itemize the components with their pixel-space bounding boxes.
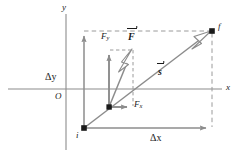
force-vector-symbol: F: [128, 31, 135, 42]
delta-x-label: Δx: [150, 133, 161, 143]
force-y-component-subscript: y: [107, 34, 110, 41]
vector-diagram-figure: x y O i f Δy Δx Fy Fx F s: [0, 0, 239, 156]
x-axis-label: x: [226, 83, 230, 92]
initial-point-marker: [81, 125, 87, 131]
axis-lines: [8, 14, 222, 150]
y-axis-label: y: [62, 3, 66, 12]
origin-label: O: [55, 92, 62, 101]
force-vector-label: F: [128, 32, 135, 42]
initial-point-label: i: [76, 131, 79, 140]
force-x-component-label: Fx: [134, 100, 142, 110]
displacement-vector-arrowhead: [192, 31, 211, 49]
force-y-component-label: Fy: [101, 32, 109, 42]
displacement-vector-label: s: [158, 67, 162, 77]
delta-y-label: Δy: [45, 72, 56, 82]
diagram-canvas: [0, 0, 239, 156]
final-point-label: f: [218, 22, 221, 31]
force-vector-line: [109, 63, 127, 107]
displacement-vector-symbol: s: [158, 66, 162, 77]
force-x-component-subscript: x: [140, 102, 143, 109]
final-point-marker: [209, 28, 215, 34]
force-origin-point-marker: [106, 104, 111, 109]
displacement-vector-line: [84, 38, 202, 128]
